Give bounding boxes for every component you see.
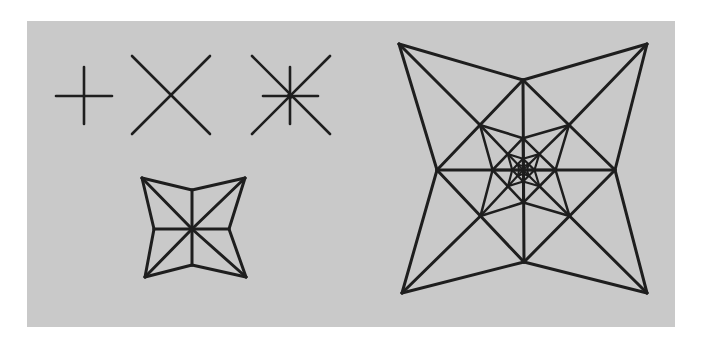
stroke-line: [437, 170, 481, 216]
geometric-star-diagram: [0, 0, 702, 342]
stroke-line: [402, 262, 524, 293]
small-star-figure: [142, 178, 246, 277]
x-figure: [132, 56, 210, 134]
stroke-line: [508, 186, 523, 202]
stroke-line: [480, 80, 523, 125]
stroke-line: [539, 170, 555, 186]
stroke-line: [524, 262, 647, 293]
stroke-line: [524, 216, 570, 262]
stroke-line: [437, 125, 480, 170]
asterisk-figure: [252, 56, 330, 134]
stroke-line: [493, 170, 508, 186]
stroke-line: [570, 170, 616, 216]
center-dot: [287, 93, 293, 99]
stroke-line: [508, 138, 523, 154]
stroke-line: [569, 125, 615, 170]
stroke-line: [523, 138, 539, 154]
stroke-line: [523, 80, 569, 125]
stroke-line: [539, 154, 555, 170]
stroke-line: [615, 44, 647, 170]
stroke-line: [570, 216, 648, 293]
stroke-line: [523, 186, 539, 202]
stroke-line: [481, 216, 525, 262]
stroke-line: [615, 170, 647, 293]
stroke-line: [493, 154, 508, 170]
large-star-figure: [399, 44, 647, 293]
plus-figure: [56, 67, 112, 124]
